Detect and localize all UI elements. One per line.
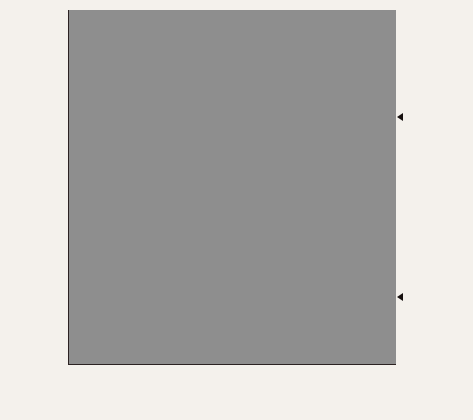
y-axis-tick-labels [0,0,66,420]
bar-series [69,10,396,364]
legend-individual-arrow-icon [397,113,403,121]
legend-medicare-arrow-icon [397,293,403,301]
x-axis-tick-labels [68,368,396,384]
plot-area [68,10,396,365]
chart-root [0,0,473,420]
